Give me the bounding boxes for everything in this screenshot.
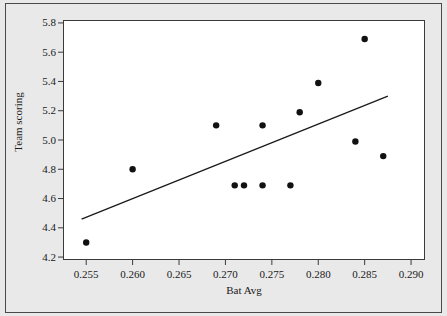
x-tick-label: 0.275	[259, 269, 284, 280]
x-tick-label: 0.285	[352, 269, 377, 280]
x-tick-label: 0.265	[167, 269, 192, 280]
x-tick-label: 0.270	[213, 269, 238, 280]
x-tick-label: 0.260	[120, 269, 145, 280]
figure-container: 4.24.44.64.85.05.25.45.65.8 0.2550.2600.…	[0, 0, 447, 316]
x-tick-label: 0.280	[306, 269, 331, 280]
x-tick-label: 0.255	[74, 269, 99, 280]
y-axis-title: Team scoring	[12, 82, 24, 162]
x-axis-tick-labels: 0.2550.2600.2650.2700.2750.2800.2850.290	[0, 0, 447, 316]
x-tick-label: 0.290	[399, 269, 424, 280]
x-axis-title: Bat Avg	[63, 284, 425, 296]
